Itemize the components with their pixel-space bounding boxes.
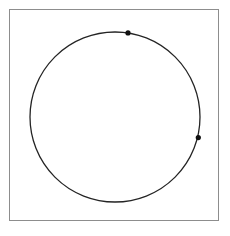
- graph-vertex-hub-right: [196, 135, 201, 140]
- figure-border-rect: [10, 10, 219, 221]
- figure-root: [0, 0, 230, 236]
- directed-graph-canvas: [0, 0, 230, 236]
- circle-layer: [10, 10, 219, 221]
- graph-vertex-hub-top: [125, 30, 130, 35]
